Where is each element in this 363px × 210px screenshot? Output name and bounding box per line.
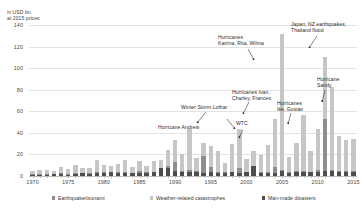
natural-catastrophe-losses-chart: in USD bn. at 2015 prices 02040608010012… [0,0,363,210]
legend-swatch-icon [52,196,55,199]
legend-label: Earthquake/tsunami [58,195,105,201]
legend-label: Weather-related catastrophes [156,195,225,201]
legend-item-2[interactable]: Man-made disasters [262,195,316,201]
chart-legend: Earthquake/tsunamiWeather-related catast… [0,195,363,207]
legend-item-1[interactable]: Weather-related catastrophes [150,195,225,201]
legend-item-0[interactable]: Earthquake/tsunami [52,195,105,201]
legend-label: Man-made disasters [268,195,316,201]
annotation-leader-lines [0,0,363,210]
legend-swatch-icon [262,196,265,199]
legend-swatch-icon [150,196,153,199]
